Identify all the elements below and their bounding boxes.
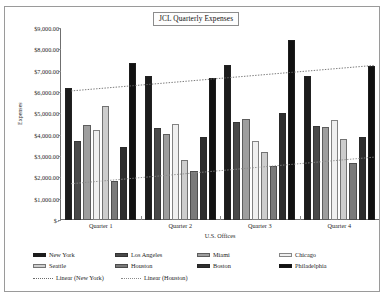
x-axis-tick-label: Quarter 3 [248, 222, 272, 229]
y-axis-tick-label: $9,000.00 [34, 25, 59, 32]
legend-label: Linear (Houston) [144, 275, 188, 281]
legend-swatch-icon [115, 264, 128, 268]
y-axis-tick-label: $1,000.00 [34, 195, 59, 202]
chart-legend: New YorkLos AngelesMiamiChicagoSeattleHo… [33, 252, 363, 294]
legend-label: Los Angeles [131, 252, 162, 258]
trendline-linear-houston [71, 157, 375, 184]
y-axis-tick-label: $5,000.00 [34, 110, 59, 117]
legend-label: Chicago [295, 252, 316, 258]
chart-title: JCL Quarterly Expenses [153, 12, 239, 26]
legend-swatch-icon [279, 253, 292, 257]
legend-item-philadelphia[interactable]: Philadelphia [279, 263, 326, 269]
legend-item-houston[interactable]: Houston [115, 263, 152, 269]
legend-trendline-icon [33, 278, 53, 279]
legend-label: Philadelphia [295, 263, 326, 269]
y-axis-tick [58, 220, 61, 221]
y-axis-tick-label: $4,000.00 [34, 131, 59, 138]
legend-item-linear-new-york[interactable]: Linear (New York) [33, 275, 104, 281]
legend-item-los-angeles[interactable]: Los Angeles [115, 252, 162, 258]
plot-area: $-$1,000.00$2,000.00$3,000.00$4,000.00$5… [61, 28, 379, 220]
legend-swatch-icon [33, 253, 46, 257]
x-axis-tick-label: Quarter 4 [327, 222, 351, 229]
legend-swatch-icon [197, 264, 210, 268]
y-axis-tick-label: $6,000.00 [34, 89, 59, 96]
legend-swatch-icon [115, 253, 128, 257]
y-axis-tick-labels: $-$1,000.00$2,000.00$3,000.00$4,000.00$5… [9, 28, 59, 220]
y-axis-tick-label: $2,000.00 [34, 174, 59, 181]
trendlines [61, 28, 379, 220]
legend-item-new-york[interactable]: New York [33, 252, 75, 258]
y-axis-tick-label: $8,000.00 [34, 46, 59, 53]
trendline-linear-new-york [71, 65, 375, 91]
legend-label: Linear (New York) [56, 275, 104, 281]
x-axis-tick-label: Quarter 2 [168, 222, 192, 229]
legend-swatch-icon [279, 264, 292, 268]
legend-label: Houston [131, 263, 152, 269]
x-axis-tick-label: Quarter 1 [89, 222, 113, 229]
chart-frame: JCL Quarterly Expenses Expenses $-$1,000… [4, 6, 380, 292]
y-axis-tick-label: $3,000.00 [34, 153, 59, 160]
legend-label: Boston [213, 263, 231, 269]
legend-item-linear-houston[interactable]: Linear (Houston) [121, 275, 188, 281]
legend-swatch-icon [33, 264, 46, 268]
legend-trendline-icon [121, 278, 141, 279]
legend-item-boston[interactable]: Boston [197, 263, 231, 269]
legend-label: Seattle [49, 263, 66, 269]
legend-label: Miami [213, 252, 230, 258]
legend-item-chicago[interactable]: Chicago [279, 252, 316, 258]
legend-item-miami[interactable]: Miami [197, 252, 230, 258]
legend-swatch-icon [197, 253, 210, 257]
x-axis-title: U.S. Offices [61, 232, 379, 239]
legend-label: New York [49, 252, 75, 258]
legend-item-seattle[interactable]: Seattle [33, 263, 66, 269]
y-axis-tick-label: $7,000.00 [34, 67, 59, 74]
